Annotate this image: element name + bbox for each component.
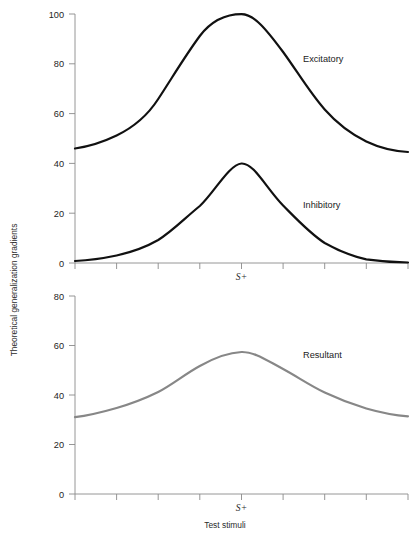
lower-panel: 80 60 40 20 0 S+ Resultant <box>54 292 408 514</box>
lower-ytick-0: 0 <box>59 490 64 500</box>
upper-ytick-20: 20 <box>54 209 64 219</box>
x-axis-title: Test stimuli <box>204 520 246 530</box>
lower-ytick-80: 80 <box>54 292 64 302</box>
upper-y-ticks <box>69 14 75 263</box>
lower-y-ticks <box>69 296 75 494</box>
lower-ytick-20: 20 <box>54 440 64 450</box>
upper-ytick-80: 80 <box>54 59 64 69</box>
upper-splus-label: S+ <box>236 271 247 282</box>
upper-ytick-100: 100 <box>49 10 64 20</box>
y-axis-title: Theoretical generalization gradients <box>9 224 19 357</box>
label-excitatory: Excitatory <box>303 54 344 64</box>
curve-resultant <box>75 352 408 417</box>
upper-ytick-0: 0 <box>59 259 64 269</box>
curve-inhibitory <box>75 163 408 262</box>
upper-x-ticks <box>75 263 408 269</box>
lower-ytick-40: 40 <box>54 391 64 401</box>
curve-excitatory <box>75 14 408 152</box>
label-inhibitory: Inhibitory <box>303 200 341 210</box>
lower-x-ticks <box>75 494 408 500</box>
upper-ytick-60: 60 <box>54 109 64 119</box>
lower-splus-label: S+ <box>236 502 247 513</box>
figure-root: Theoretical generalization gradients 100… <box>0 0 418 537</box>
lower-ytick-60: 60 <box>54 341 64 351</box>
upper-ytick-40: 40 <box>54 159 64 169</box>
upper-panel: 100 80 60 40 20 0 S+ Excitatory Inhibito… <box>49 10 408 283</box>
label-resultant: Resultant <box>303 350 342 360</box>
